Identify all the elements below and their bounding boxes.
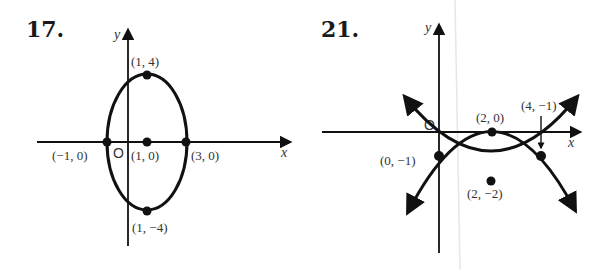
point-vertex-bottom	[143, 207, 152, 216]
point-label: (2, −2)	[467, 186, 503, 201]
point-vertex-top	[488, 128, 497, 137]
figure-canvas: 17. x y O (1, 4) (−1, 0) (1, 0) (3, 0) (…	[0, 0, 594, 270]
page-crease	[455, 0, 460, 270]
point-intersection-right	[536, 151, 546, 161]
point-vertex-left	[103, 138, 112, 147]
figure-17: 17. x y O (1, 4) (−1, 0) (1, 0) (3, 0) (…	[26, 16, 290, 246]
y-axis-label: y	[423, 20, 432, 35]
y-axis-label: y	[112, 27, 121, 42]
origin-label: O	[113, 145, 124, 161]
x-axis-label: x	[280, 145, 288, 160]
figure-number: 17.	[26, 16, 64, 42]
point-label: (1, 4)	[131, 54, 159, 69]
point-label: (1, 0)	[131, 148, 159, 163]
point-intersection-left	[434, 151, 444, 161]
point-label: (4, −1)	[521, 98, 557, 113]
point-label: (0, −1)	[380, 153, 416, 168]
point-vertex-right	[182, 138, 191, 147]
point-center	[143, 138, 152, 147]
point-label: (3, 0)	[191, 148, 219, 163]
x-axis-label: x	[567, 135, 575, 150]
point-vertex-bottom	[487, 177, 496, 186]
figure-21: 21. x y O (0, −1) (2, 0) (2, −2) (4, −1)	[321, 16, 580, 253]
point-label: (2, 0)	[476, 110, 504, 125]
point-vertex-top	[143, 71, 152, 80]
point-label: (−1, 0)	[52, 148, 88, 163]
figure-number: 21.	[321, 16, 359, 42]
point-label: (1, −4)	[132, 220, 168, 235]
